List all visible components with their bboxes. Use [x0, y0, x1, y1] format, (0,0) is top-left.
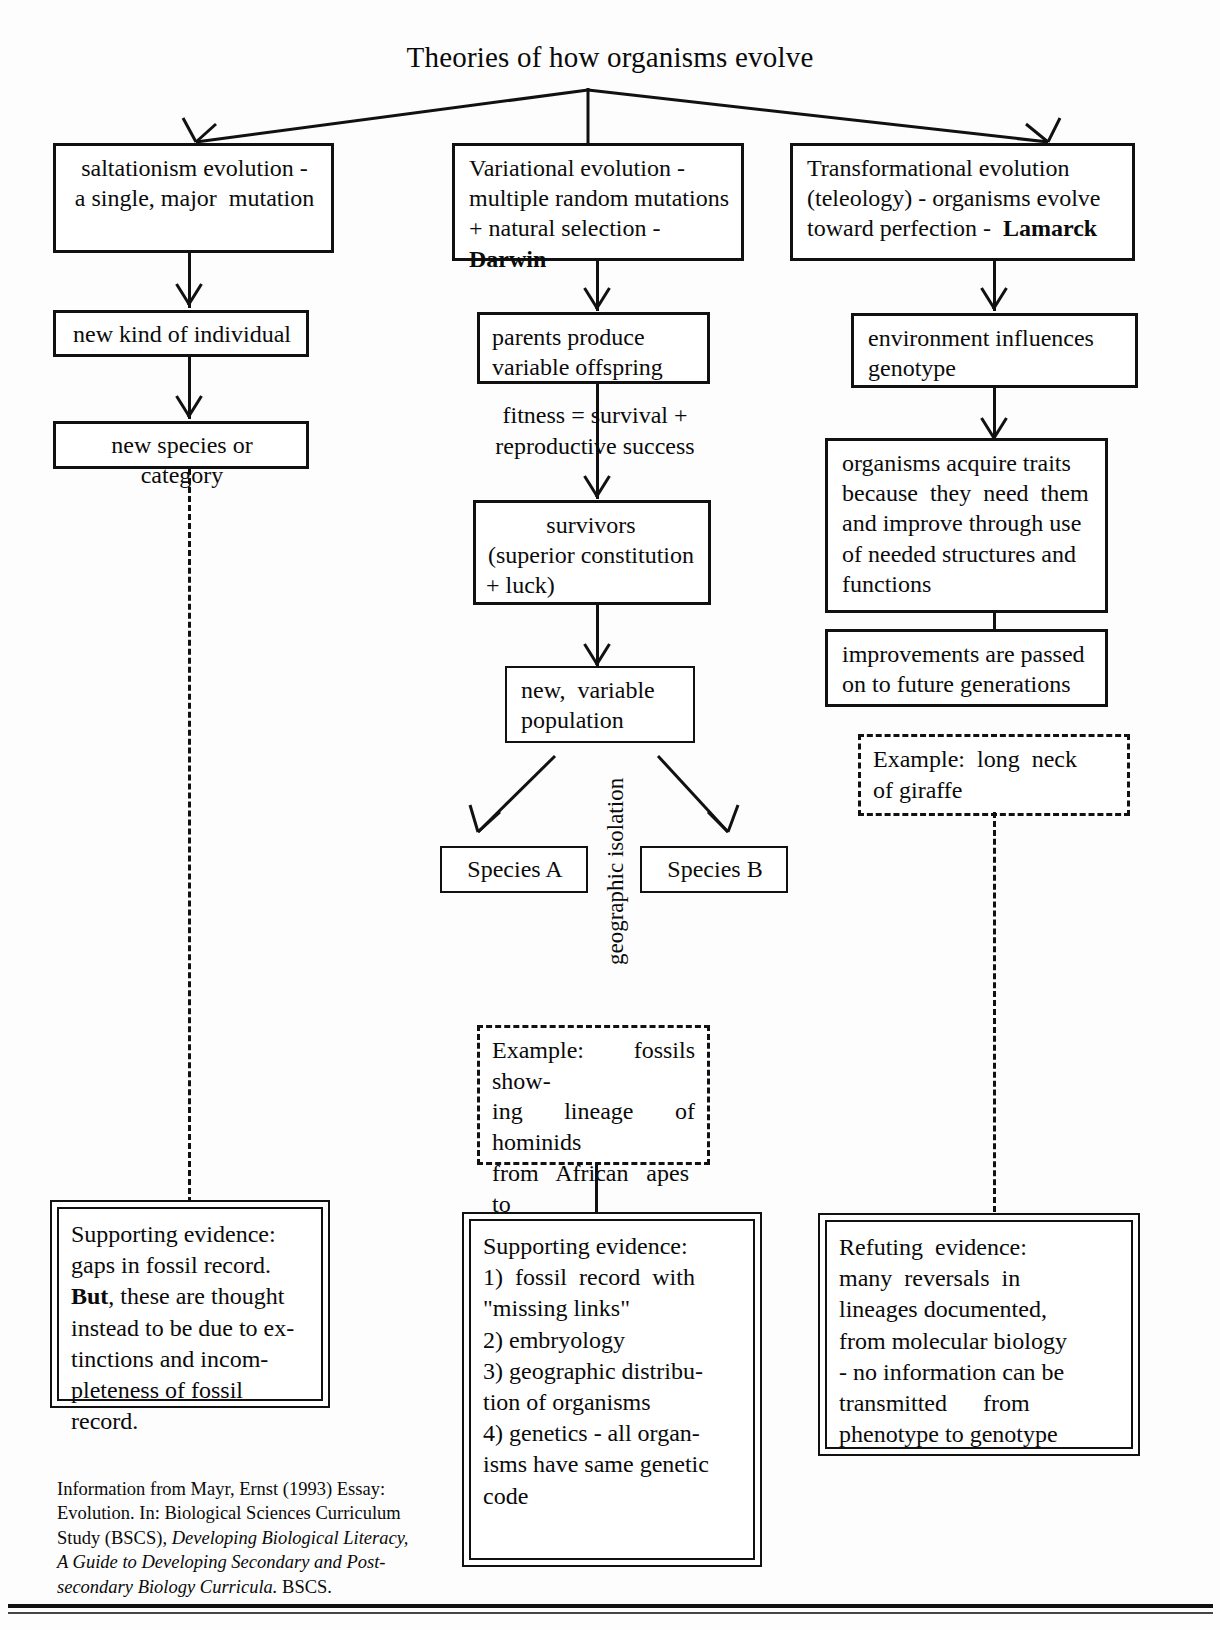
middle-step-1-box: parents produce variable offspring — [477, 312, 710, 384]
left-root-box: saltationism evolution - a single, major… — [53, 143, 334, 253]
middle-evidence-line-8: isms have same genetic — [483, 1449, 741, 1480]
page-bottom-rule — [8, 1604, 1213, 1608]
left-root-line-2: a single, major mutation — [68, 183, 321, 213]
middle-evidence-line-2: 1) fossil record with — [483, 1262, 741, 1293]
middle-arrowhead-2 — [580, 476, 614, 498]
citation-line-1: Information from Mayr, Ernst (1993) Essa… — [57, 1477, 457, 1501]
right-dashed-connector — [993, 812, 996, 1212]
middle-step-3-box: new, variable population — [505, 666, 695, 743]
middle-example-line-1: Example: fossils show- — [492, 1035, 695, 1096]
right-step-3-line-2: on to future generations — [842, 669, 1095, 699]
citation-line-3-italic: Developing Biological Literacy, — [172, 1528, 409, 1548]
right-example-box: Example: long neck of giraffe — [858, 734, 1130, 816]
right-evidence-line-6: transmitted from — [839, 1388, 1119, 1419]
middle-root-bold: Darwin — [469, 246, 546, 272]
right-arrowhead-2 — [977, 418, 1011, 440]
right-step-2-line-1: organisms acquire traits — [842, 448, 1095, 478]
right-step-1-line-2: genotype — [868, 353, 1125, 383]
middle-root-line-3: + natural selection - Darwin — [469, 213, 731, 273]
citation-line-3: Study (BSCS), Developing Biological Lite… — [57, 1526, 457, 1550]
citation-line-2: Evolution. In: Biological Sciences Curri… — [57, 1501, 457, 1525]
middle-step-2-line-3: + luck) — [486, 570, 698, 600]
middle-fitness-line-2: reproductive success — [450, 431, 740, 462]
left-root-line-1: saltationism evolution - — [68, 153, 321, 183]
right-root-line-2: (teleology) - organisms evolve — [807, 183, 1122, 213]
left-step-1-box: new kind of individual — [53, 310, 309, 357]
middle-species-b-label: Species B — [667, 856, 762, 882]
left-step-2-box: new species or category — [53, 421, 309, 469]
left-evidence-line-7: record. — [71, 1406, 309, 1437]
right-connector-3 — [993, 613, 996, 629]
left-evidence-bold: But — [71, 1283, 108, 1309]
right-step-1-box: environment influences genotype — [851, 313, 1138, 388]
citation-line-4-italic: A Guide to Developing Secondary and Post… — [57, 1552, 385, 1572]
middle-connector-4 — [595, 1165, 598, 1215]
middle-fitness-note: fitness = survival + reproductive succes… — [450, 400, 740, 462]
middle-evidence-line-5: 3) geographic distribu- — [483, 1356, 741, 1387]
middle-arrowhead-3 — [580, 644, 614, 666]
middle-species-b-box: Species B — [640, 846, 788, 893]
left-step-1-label: new kind of individual — [73, 321, 291, 347]
citation-block: Information from Mayr, Ernst (1993) Essa… — [57, 1477, 457, 1599]
right-step-2-line-4: of needed structures and — [842, 539, 1095, 569]
middle-step-3-line-2: population — [521, 705, 683, 735]
right-step-2-line-5: functions — [842, 569, 1095, 599]
middle-example-line-2: ing lineage of hominids — [492, 1096, 695, 1157]
right-root-line-1: Transformational evolution — [807, 153, 1122, 183]
middle-evidence-line-4: 2) embryology — [483, 1325, 741, 1356]
right-evidence-text: Refuting evidence: many reversals in lin… — [825, 1220, 1133, 1449]
middle-evidence-line-3: "missing links" — [483, 1293, 741, 1324]
middle-arrowhead-1 — [580, 288, 614, 310]
left-arrowhead-2 — [172, 396, 206, 418]
middle-step-1-line-1: parents produce — [492, 322, 697, 352]
middle-example-box: Example: fossils show- ing lineage of ho… — [477, 1025, 710, 1165]
right-evidence-line-2: many reversals in — [839, 1263, 1119, 1294]
middle-species-a-box: Species A — [440, 846, 588, 893]
right-arrowhead-1 — [977, 288, 1011, 310]
middle-evidence-line-6: tion of organisms — [483, 1387, 741, 1418]
middle-evidence-line-7: 4) genetics - all organ- — [483, 1418, 741, 1449]
right-root-box: Transformational evolution (teleology) -… — [790, 143, 1135, 261]
left-evidence-text: Supporting evidence: gaps in fossil reco… — [57, 1207, 323, 1401]
middle-root-line-1: Variational evolution - — [469, 153, 731, 183]
right-step-2-line-3: and improve through use — [842, 508, 1095, 538]
left-evidence-line-5: tinctions and incom- — [71, 1344, 309, 1375]
middle-root-line-2: multiple random mutations — [469, 183, 731, 213]
left-evidence-line-1: Supporting evidence: — [71, 1219, 309, 1250]
middle-evidence-line-1: Supporting evidence: — [483, 1231, 741, 1262]
right-root-line-3: toward perfection - Lamarck — [807, 213, 1122, 243]
right-evidence-line-7: phenotype to genotype — [839, 1419, 1119, 1450]
citation-line-5: secondary Biology Curricula. BSCS. — [57, 1575, 457, 1599]
diagram-page: Appendix Theories of how organisms evolv… — [0, 0, 1220, 1630]
right-example-line-2: of giraffe — [873, 775, 1115, 806]
left-evidence-line-3: But, these are thought — [71, 1281, 309, 1312]
right-step-3-box: improvements are passed on to future gen… — [825, 629, 1108, 707]
middle-step-2-line-1: survivors — [484, 510, 698, 540]
middle-evidence-text: Supporting evidence: 1) fossil record wi… — [469, 1219, 755, 1560]
citation-line-3-plain: Study (BSCS), — [57, 1528, 172, 1548]
middle-step-2-box: survivors (superior constitution + luck) — [473, 500, 711, 605]
left-dashed-connector — [188, 469, 191, 1203]
middle-example-line-3: from African apes to — [492, 1158, 695, 1219]
page-title: Theories of how organisms evolve — [0, 42, 1220, 74]
left-evidence-line-2: gaps in fossil record. — [71, 1250, 309, 1281]
middle-species-a-label: Species A — [467, 856, 562, 882]
right-step-2-line-2: because they need them — [842, 478, 1095, 508]
left-evidence-box: Supporting evidence: gaps in fossil reco… — [50, 1200, 330, 1408]
right-root-bold: Lamarck — [1003, 215, 1097, 241]
citation-line-4: A Guide to Developing Secondary and Post… — [57, 1550, 457, 1574]
right-step-1-line-1: environment influences — [868, 323, 1125, 353]
left-evidence-line-6: pleteness of fossil — [71, 1375, 309, 1406]
right-evidence-line-4: from molecular biology — [839, 1326, 1119, 1357]
left-step-2-label: new species or category — [111, 432, 252, 488]
right-evidence-box: Refuting evidence: many reversals in lin… — [818, 1213, 1140, 1456]
right-evidence-line-1: Refuting evidence: — [839, 1232, 1119, 1263]
middle-evidence-box: Supporting evidence: 1) fossil record wi… — [462, 1212, 762, 1567]
left-arrowhead-1 — [172, 284, 206, 306]
right-step-2-box: organisms acquire traits because they ne… — [825, 438, 1108, 613]
right-evidence-line-5: - no information can be — [839, 1357, 1119, 1388]
middle-step-1-line-2: variable offspring — [492, 352, 697, 382]
page-bottom-rule-secondary — [8, 1612, 1213, 1614]
middle-evidence-line-9: code — [483, 1481, 741, 1512]
middle-step-2-line-2: (superior constitution — [484, 540, 698, 570]
